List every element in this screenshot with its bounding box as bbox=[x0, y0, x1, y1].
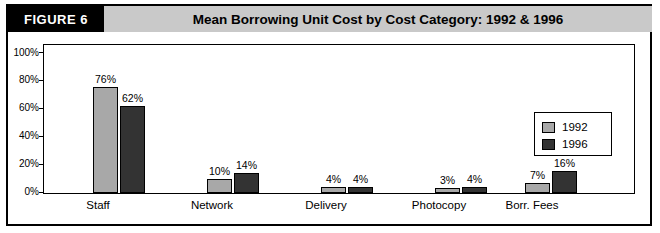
legend-label-1992: 1992 bbox=[562, 121, 588, 133]
bar-value-1996-delivery: 4% bbox=[343, 173, 378, 185]
bar-1996-borr-fees bbox=[552, 171, 577, 193]
bar-value-1996-staff: 62% bbox=[115, 92, 150, 104]
bar-1996-staff bbox=[120, 106, 145, 193]
figure-number-tag: FIGURE 6 bbox=[8, 6, 104, 32]
bar-1996-network bbox=[234, 173, 259, 193]
figure-header: FIGURE 6 Mean Borrowing Unit Cost by Cos… bbox=[8, 6, 652, 32]
bar-value-1996-photocopy: 4% bbox=[457, 173, 492, 185]
bar-1996-delivery bbox=[348, 187, 373, 193]
x-tick-label-photocopy: Photocopy bbox=[398, 199, 480, 211]
legend-item-1992: 1992 bbox=[542, 121, 588, 133]
bar-1992-photocopy bbox=[435, 188, 460, 193]
y-tick-label-20: 20% bbox=[3, 158, 39, 169]
bar-1992-network bbox=[207, 179, 232, 193]
bar-group-photocopy: 3% 4% bbox=[432, 44, 492, 193]
y-tick-label-60: 60% bbox=[3, 102, 39, 113]
bar-1992-borr-fees bbox=[525, 183, 550, 193]
figure-title: Mean Borrowing Unit Cost by Cost Categor… bbox=[104, 6, 652, 32]
legend-swatch-1996 bbox=[542, 139, 555, 150]
legend-item-1996: 1996 bbox=[542, 138, 588, 150]
bar-group-delivery: 4% 4% bbox=[318, 44, 378, 193]
bar-1992-delivery bbox=[321, 187, 346, 193]
figure-container: FIGURE 6 Mean Borrowing Unit Cost by Cos… bbox=[0, 0, 660, 233]
bar-value-1992-staff: 76% bbox=[88, 73, 123, 85]
x-tick-label-network: Network bbox=[174, 199, 250, 211]
legend: 1992 1996 bbox=[534, 112, 612, 156]
bar-1996-photocopy bbox=[462, 187, 487, 193]
legend-label-1996: 1996 bbox=[562, 138, 588, 150]
y-tick-label-100: 100% bbox=[3, 47, 39, 58]
bar-value-1992-borr-fees: 7% bbox=[520, 169, 555, 181]
bar-group-network: 10% 14% bbox=[204, 44, 264, 193]
bar-group-staff: 76% 62% bbox=[90, 44, 150, 193]
bar-value-1996-borr-fees: 16% bbox=[547, 157, 582, 169]
x-tick-label-staff: Staff bbox=[62, 199, 134, 211]
x-tick-label-delivery: Delivery bbox=[288, 199, 364, 211]
legend-swatch-1992 bbox=[542, 122, 555, 133]
y-tick-label-80: 80% bbox=[3, 74, 39, 85]
y-tick-label-40: 40% bbox=[3, 130, 39, 141]
bar-value-1996-network: 14% bbox=[229, 159, 264, 171]
x-tick-label-borr-fees: Borr. Fees bbox=[490, 199, 574, 211]
y-tick-label-0: 0% bbox=[3, 186, 39, 197]
